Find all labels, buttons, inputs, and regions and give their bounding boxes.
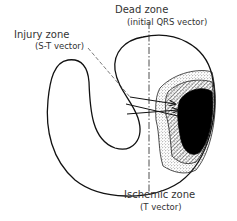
injury-zone-sublabel: (S-T vector) — [35, 42, 84, 51]
dead-zone-sublabel: (initial QRS vector) — [127, 18, 207, 27]
ischemic-zone-sublabel: (T vector) — [140, 203, 182, 212]
ischemic-zone-label: Ischemic zone — [124, 190, 195, 200]
dead-zone-label: Dead zone — [115, 5, 168, 15]
injury-zone-label: Injury zone — [14, 30, 69, 40]
diagram-canvas: Dead zone (initial QRS vector) Injury zo… — [0, 0, 237, 221]
